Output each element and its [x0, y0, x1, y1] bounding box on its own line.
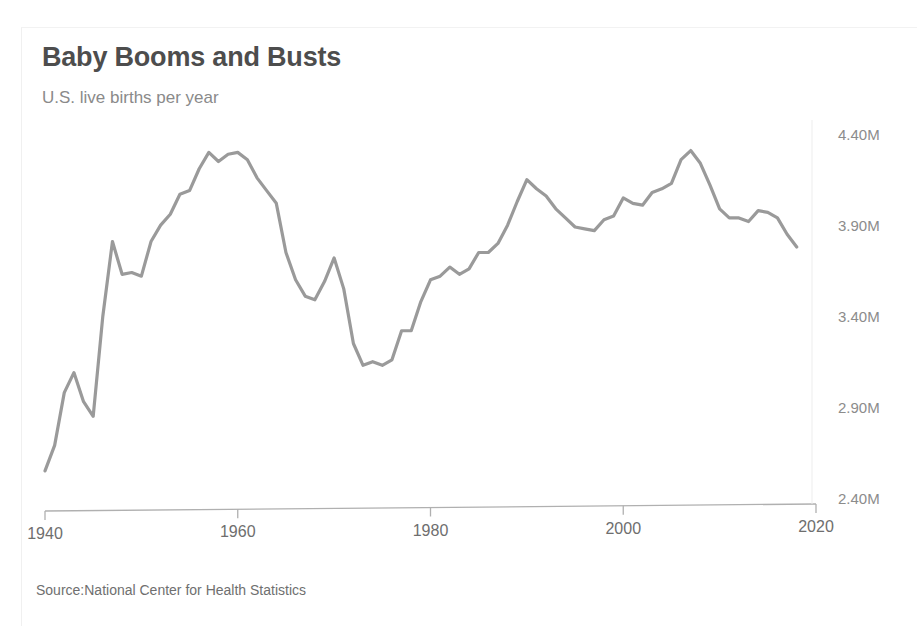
plot-area: 2.40M2.90M3.40M3.90M4.40M 19401960198020… [0, 0, 918, 626]
y-axis-tick-label: 2.40M [838, 490, 880, 507]
x-axis-tick-label: 1940 [27, 525, 63, 543]
y-axis-tick-label: 4.40M [838, 126, 880, 143]
y-axis-tick-label: 3.90M [838, 217, 880, 234]
axis-group [45, 120, 816, 520]
x-axis-tick-label: 2000 [605, 520, 641, 538]
data-line-us-live-births [45, 151, 797, 471]
y-axis-tick-label: 3.40M [838, 308, 880, 325]
source-note: Source:National Center for Health Statis… [36, 582, 306, 598]
chart-card: Baby Booms and Busts U.S. live births pe… [0, 0, 918, 626]
x-axis-tick-label: 2020 [798, 518, 834, 536]
x-axis-tick-label: 1960 [220, 523, 256, 541]
y-axis-tick-label: 2.90M [838, 399, 880, 416]
x-axis-tick-label: 1980 [413, 522, 449, 540]
line-chart-svg [0, 0, 918, 626]
series-group [45, 151, 797, 471]
